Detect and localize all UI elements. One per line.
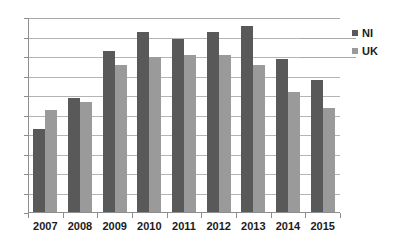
plot-area <box>28 18 340 213</box>
x-axis-tick-mark <box>132 213 133 218</box>
y-axis-tick-mark <box>24 77 28 78</box>
legend-swatch-ni-icon <box>352 30 358 36</box>
y-axis-tick-mark <box>24 194 28 195</box>
legend-leader-line <box>300 57 356 58</box>
y-axis-tick-mark <box>24 155 28 156</box>
x-axis-tick-mark <box>167 213 168 218</box>
legend-item-ni: NI <box>352 24 392 42</box>
x-axis-tick-mark <box>28 213 29 218</box>
legend-label-ni: NI <box>362 28 373 39</box>
x-axis-label-2015: 2015 <box>300 220 346 232</box>
x-axis-tick-mark <box>305 213 306 218</box>
x-axis-tick-mark <box>63 213 64 218</box>
y-axis-tick-mark <box>24 96 28 97</box>
y-axis-tick-mark <box>24 116 28 117</box>
chart-legend: NI UK <box>352 24 392 60</box>
x-axis-tick-mark <box>236 213 237 218</box>
x-axis-tick-mark <box>340 213 341 218</box>
legend-item-uk: UK <box>352 42 392 60</box>
bar-chart: 012345678910 200720082009201020112012201… <box>0 0 393 246</box>
legend-leader-line <box>300 38 356 39</box>
y-axis-tick-mark <box>24 213 28 214</box>
y-axis-tick-mark <box>24 174 28 175</box>
x-axis-tick-mark <box>201 213 202 218</box>
legend-swatch-uk-icon <box>352 48 358 54</box>
plot-frame <box>28 18 340 213</box>
x-axis-tick-mark <box>97 213 98 218</box>
y-axis-tick-mark <box>24 18 28 19</box>
y-axis-tick-mark <box>24 135 28 136</box>
x-axis-tick-mark <box>271 213 272 218</box>
y-axis-tick-mark <box>24 57 28 58</box>
legend-label-uk: UK <box>362 46 378 57</box>
y-axis-tick-mark <box>24 38 28 39</box>
